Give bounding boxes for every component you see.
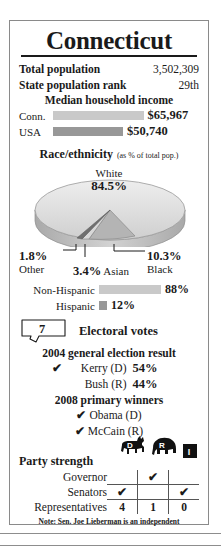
legend-black-name: Black (147, 263, 173, 275)
race-pie-chart: White 84.5% (19, 163, 199, 247)
income-bar-track: $50,740 (53, 124, 199, 139)
legend-black-value: 10.3% (147, 249, 181, 263)
race-subheading-text: (as % of total pop.) (117, 151, 179, 160)
legend-asian: 3.4% Asian (73, 264, 129, 278)
cell-governor-r: ✔ (138, 470, 169, 485)
party-strength-table: Governor ✔ Senators ✔ ✔ Representatives … (19, 470, 199, 514)
state-fact-card-page: Connecticut Total population 3,502,309 S… (0, 0, 221, 547)
row-label: Governor (19, 470, 107, 485)
hispanic-pct: 88% (165, 282, 189, 297)
svg-text:R: R (159, 441, 165, 450)
hispanic-bar-fill (99, 285, 161, 294)
income-bar-fill (53, 111, 144, 120)
income-label: USA (19, 126, 53, 138)
check-icon: ✔ (75, 424, 88, 439)
stat-value: 29th (179, 78, 199, 92)
hispanic-bar-fill (99, 301, 107, 310)
income-bar-fill (53, 127, 123, 136)
row-label: Representatives (19, 500, 107, 515)
race-heading-text: Race/ethnicity (40, 147, 113, 161)
pie-white-value: 84.5% (91, 178, 127, 193)
stat-value: 3,502,309 (153, 62, 199, 76)
winner-name: Obama (D) (89, 409, 141, 421)
cell-senators-d: ✔ (107, 485, 138, 500)
race-ethnicity-heading: Race/ethnicity (as % of total pop.) (19, 144, 199, 162)
page-title: Connecticut (19, 28, 199, 54)
connecticut-fact-card: Connecticut Total population 3,502,309 S… (9, 20, 209, 525)
pie-legend: 1.8% Other 3.4% Asian 10.3% Black (19, 247, 199, 281)
electoral-votes-row: 7 Electoral votes (19, 317, 199, 345)
general-row-bush: Bush (R) 44% (19, 377, 199, 392)
hispanic-row-non-hispanic: Non-Hispanic 88% (19, 282, 199, 297)
connecticut-outline-icon: 7 (19, 317, 73, 345)
party-strength-section: D R I Party strength (19, 440, 199, 526)
electoral-votes-label: Electoral votes (79, 324, 158, 339)
income-row-conn: Conn. $65,967 (19, 108, 199, 123)
candidate-pct: 44% (133, 377, 167, 392)
stat-label: State population rank (19, 78, 126, 92)
candidate-name: Kerry (D) (65, 362, 133, 374)
row-label: Senators (19, 485, 107, 500)
cell-senators-i: ✔ (169, 485, 200, 500)
primary-row-obama: ✔ Obama (D) (19, 408, 199, 423)
footer-divider (0, 533, 221, 534)
pie-white-label: White 84.5% (19, 167, 199, 194)
cell-governor-i (169, 470, 200, 485)
legend-asian-value: 3.4% (73, 264, 101, 278)
independent-square-icon: I (183, 444, 197, 462)
stat-row-total-population: Total population 3,502,309 (19, 62, 199, 76)
hispanic-label: Non-Hispanic (19, 284, 99, 296)
cell-reps-d: 4 (107, 500, 138, 515)
footnote: Note: Sen. Joe Lieberman is an independe… (19, 517, 199, 526)
cell-reps-r: 1 (138, 500, 169, 515)
income-amount: $50,740 (127, 124, 168, 139)
republican-elephant-icon: R (151, 436, 179, 462)
primary-winners-heading: 2008 primary winners (19, 394, 199, 406)
median-income-heading: Median household income (19, 94, 199, 106)
general-row-kerry: ✔ Kerry (D) 54% (19, 361, 199, 376)
table-row: Representatives 4 1 0 (19, 500, 199, 515)
hispanic-pct: 12% (111, 298, 135, 313)
legend-other-value: 1.8% (19, 249, 47, 263)
income-label: Conn. (19, 110, 53, 122)
check-icon: ✔ (52, 361, 65, 376)
electoral-votes-number: 7 (19, 322, 65, 337)
income-row-usa: USA $50,740 (19, 124, 199, 139)
candidate-name: Bush (R) (65, 378, 133, 390)
hispanic-row-hispanic: Hispanic 12% (19, 298, 199, 313)
candidate-pct: 54% (133, 361, 167, 376)
svg-text:I: I (188, 447, 191, 457)
cell-senators-r (138, 485, 169, 500)
legend-asian-name: Asian (103, 265, 129, 277)
svg-text:D: D (127, 441, 133, 450)
income-bar-track: $65,967 (53, 108, 199, 123)
legend-other: 1.8% Other (19, 249, 47, 276)
check-icon: ✔ (76, 408, 89, 423)
hispanic-label: Hispanic (19, 300, 99, 312)
legend-other-name: Other (19, 263, 44, 275)
footer-divider-2 (0, 545, 221, 546)
cell-governor-d (107, 470, 138, 485)
general-election-heading: 2004 general election result (19, 347, 199, 359)
title-underline (21, 55, 197, 57)
income-amount: $65,967 (148, 108, 189, 123)
stat-row-population-rank: State population rank 29th (19, 78, 199, 92)
pie-white-name: White (96, 167, 123, 179)
stat-label: Total population (19, 62, 100, 76)
democrat-donkey-icon: D (121, 436, 147, 462)
legend-black: 10.3% Black (147, 249, 181, 276)
cell-reps-i: 0 (169, 500, 200, 515)
table-row: Governor ✔ (19, 470, 199, 485)
party-icons: D R I (121, 436, 197, 462)
table-row: Senators ✔ ✔ (19, 485, 199, 500)
